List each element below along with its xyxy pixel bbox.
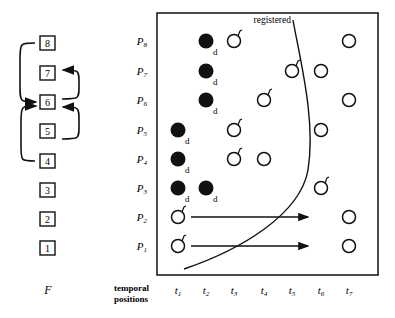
- filled-point-p8-t2: d: [199, 34, 219, 58]
- filled-point-p3-t1: d: [171, 181, 191, 205]
- link-4-to-6: [21, 106, 36, 161]
- point-tag-d: d: [185, 136, 190, 146]
- open-point-p8-t3: [228, 30, 243, 48]
- link-6-to-7: [62, 70, 79, 99]
- registered-boundary-curve: [184, 20, 310, 269]
- point-tag-d: d: [213, 77, 218, 87]
- frame-box-7: 7: [40, 66, 55, 80]
- flag-f-icon: [325, 177, 329, 183]
- row-labels: P8P7P6P5P4P3P2P1: [136, 35, 148, 254]
- plot-frame: [157, 13, 378, 275]
- column-label-t7: t7: [346, 284, 353, 298]
- open-point-p2-t7: [343, 211, 356, 224]
- open-point-p5-t3: [228, 119, 243, 137]
- column-label-t2: t2: [203, 284, 210, 298]
- flag-f-icon: [238, 148, 242, 154]
- filled-point-p6-t2: d: [199, 93, 219, 117]
- frame-box-label: 7: [45, 68, 50, 79]
- data-points: ddddddd: [171, 30, 356, 253]
- row-label-p6: P6: [136, 94, 148, 108]
- row-label-p7: P7: [136, 65, 148, 79]
- row-label-p3: P3: [136, 182, 148, 196]
- propagation-arrows: [191, 217, 308, 246]
- column-label-t1: t1: [175, 284, 182, 298]
- open-point-p2-t1: [172, 206, 187, 224]
- open-point-p5-t6: [315, 124, 328, 137]
- frame-box-label: 6: [45, 97, 50, 108]
- flag-f-icon: [182, 206, 186, 212]
- open-point-p7-t5: [286, 60, 301, 78]
- flag-f-icon: [182, 235, 186, 241]
- registered-label: registered: [254, 15, 292, 25]
- temporal-registration-diagram: 87654321 F P8P7P6P5P4P3P2P1 t1t2t3t4t5t6…: [0, 0, 395, 318]
- open-point-p4-t3: [228, 148, 243, 166]
- row-label-p5: P5: [136, 124, 148, 138]
- open-point-p7-t6: [315, 65, 328, 78]
- frame-box-5: 5: [40, 124, 55, 138]
- frame-box-8: 8: [40, 36, 55, 50]
- frame-set-label: F: [43, 283, 52, 297]
- axis-label-line2: positions: [114, 294, 149, 304]
- frame-box-3: 3: [40, 183, 55, 197]
- row-label-p1: P1: [136, 240, 147, 254]
- open-point-p1-t7: [343, 240, 356, 253]
- point-tag-d: d: [185, 165, 190, 175]
- frame-box-label: 1: [45, 243, 50, 254]
- row-label-p2: P2: [136, 211, 148, 225]
- frame-box-label: 4: [45, 156, 50, 167]
- open-point-p8-t7: [343, 35, 356, 48]
- filled-point-p3-t2: d: [199, 181, 219, 205]
- frame-box-1: 1: [40, 241, 55, 255]
- open-point-p4-t4: [258, 153, 271, 166]
- column-label-t3: t3: [231, 284, 238, 298]
- row-label-p8: P8: [136, 35, 148, 49]
- frame-box-6: 6: [40, 95, 55, 109]
- filled-point-p5-t1: d: [171, 123, 191, 147]
- flag-f-icon: [296, 60, 300, 66]
- column-label-t5: t5: [289, 284, 296, 298]
- frame-box-label: 2: [45, 214, 50, 225]
- frame-box-4: 4: [40, 154, 55, 168]
- filled-point-p4-t1: d: [171, 152, 191, 176]
- column-label-t4: t4: [261, 284, 268, 298]
- row-label-p4: P4: [136, 153, 148, 167]
- frame-sequence-panel: 87654321: [40, 36, 55, 255]
- frame-box-label: 5: [45, 126, 50, 137]
- open-point-p6-t7: [343, 94, 356, 107]
- column-labels: t1t2t3t4t5t6t7: [175, 284, 353, 298]
- column-label-t6: t6: [318, 284, 325, 298]
- point-tag-d: d: [185, 194, 190, 204]
- frame-box-label: 8: [45, 38, 50, 49]
- link-8-to-6: [20, 43, 36, 102]
- open-point-p6-t4: [258, 89, 273, 107]
- point-tag-d: d: [213, 106, 218, 116]
- flag-f-icon: [268, 89, 272, 95]
- link-5-to-6: [62, 107, 79, 139]
- point-tag-d: d: [213, 194, 218, 204]
- frame-box-label: 3: [45, 185, 50, 196]
- flag-f-icon: [238, 30, 242, 36]
- open-point-p3-t6: [315, 177, 330, 195]
- axis-label-line1: temporal: [114, 283, 149, 293]
- flag-f-icon: [238, 119, 242, 125]
- frame-box-2: 2: [40, 212, 55, 226]
- open-point-p1-t1: [172, 235, 187, 253]
- point-tag-d: d: [213, 47, 218, 57]
- filled-point-p7-t2: d: [199, 64, 219, 88]
